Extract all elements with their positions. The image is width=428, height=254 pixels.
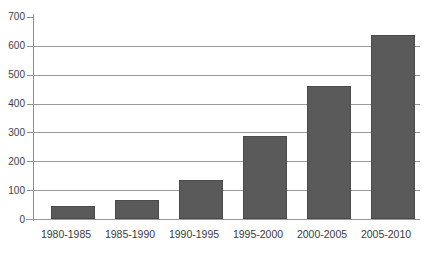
bar-1985-1990	[115, 200, 159, 219]
y-tick-label-700: 700	[3, 12, 25, 22]
bar-1980-1985	[51, 206, 95, 219]
bar-2000-2005	[307, 86, 351, 219]
bar-2005-2010	[371, 35, 415, 219]
gridline-600	[33, 46, 420, 47]
gridline-200	[33, 161, 420, 162]
x-tick-label-2005-2010: 2005-2010	[341, 228, 428, 241]
gridline-500	[33, 75, 420, 76]
y-tick-label-100: 100	[3, 186, 25, 196]
bar-chart: 700 600 500 400 300 200 100 0 1980-1985 …	[0, 0, 428, 254]
bar-1995-2000	[243, 136, 287, 219]
plot-area	[33, 16, 420, 219]
bar-1990-1995	[179, 180, 223, 219]
gridline-300	[33, 132, 420, 133]
y-tick-label-500: 500	[3, 70, 25, 80]
y-tick-label-200: 200	[3, 157, 25, 167]
y-axis-labels: 700 600 500 400 300 200 100 0	[0, 0, 25, 254]
x-axis-line	[26, 219, 420, 220]
y-tick-label-300: 300	[3, 128, 25, 138]
gridline-400	[33, 104, 420, 105]
y-tick-label-400: 400	[3, 99, 25, 109]
gridline-100	[33, 190, 420, 191]
y-tick-label-0: 0	[3, 215, 25, 225]
y-tick-label-600: 600	[3, 41, 25, 51]
